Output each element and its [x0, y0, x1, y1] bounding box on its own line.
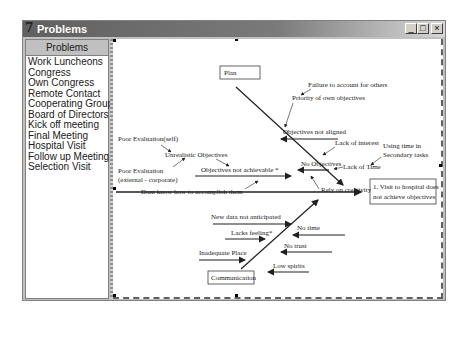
list-item[interactable]: Own Congress — [28, 78, 106, 89]
fishbone-diagram: 1. Visit to hospital does not achieve ob… — [113, 39, 443, 299]
cause-using-time-2: Secondary tasks — [383, 151, 429, 159]
maximize-button[interactable]: □ — [417, 23, 429, 34]
list-item[interactable]: Work Luncheons — [28, 57, 106, 68]
cause-low-spirits: Low spirits — [273, 262, 305, 270]
close-button[interactable]: × — [431, 23, 443, 34]
cause-using-time-1: Using time in — [383, 142, 422, 150]
effect-line-2: not achieve objectives — [373, 193, 435, 201]
minimize-button[interactable]: _ — [405, 23, 417, 34]
cause-lack-of-time: Lack of Time — [343, 163, 381, 171]
list-item[interactable]: Cooperating Groups — [28, 99, 106, 110]
cause-failure-to-account: Failure to account for others — [308, 81, 388, 89]
title-bar[interactable]: 7 Problems _ □ × — [23, 21, 445, 37]
list-item[interactable]: Selection Visit — [28, 162, 106, 173]
window-title: Problems — [37, 22, 87, 36]
list-item[interactable]: Hospital Visit — [28, 141, 106, 152]
cause-rely-on-creativity: Rely on creativity — [321, 186, 372, 194]
cause-no-time: No time — [297, 224, 320, 232]
resize-handle[interactable] — [235, 39, 238, 41]
resize-handle[interactable] — [113, 294, 116, 297]
effect-line-1: 1. Visit to hospital does — [373, 183, 439, 191]
list-header[interactable]: Problems — [26, 40, 108, 56]
category-communication: Communication — [211, 274, 257, 282]
resize-handle[interactable] — [235, 294, 238, 297]
cause-poor-evaluation-self: Poor Evaluation(self) — [118, 135, 179, 143]
cause-no-trust: No trust — [284, 242, 307, 250]
cause-unrealistic-objectives: Unrealistic Objectives — [165, 151, 228, 159]
fishbone-diagram-canvas[interactable]: 1. Visit to hospital does not achieve ob… — [113, 39, 443, 299]
cause-lack-of-interest: Lack of interest — [335, 139, 379, 147]
cause-priority-own-objectives: Priority of own objectives — [292, 94, 365, 102]
resize-handle[interactable] — [113, 39, 116, 42]
app-icon: 7 — [25, 22, 37, 35]
cause-no-objectives: No Objectives — [301, 160, 342, 168]
problems-list-panel: Problems Work Luncheons Congress Own Con… — [25, 39, 109, 299]
problems-list: Work Luncheons Congress Own Congress Rem… — [26, 56, 108, 174]
resize-handle[interactable] — [439, 164, 442, 167]
cause-poor-evaluation-ext-2: (external - corporate) — [118, 176, 178, 184]
cause-objectives-not-aligned: Objectives not aligned — [283, 128, 346, 136]
category-plan: Plan — [224, 69, 237, 77]
cause-lacks-feeling: Lacks feeling* — [231, 229, 273, 237]
cause-dont-know-how: Dont know how to accomplish them — [141, 188, 243, 196]
resize-handle[interactable] — [113, 187, 116, 190]
list-item[interactable]: Kick off meeting — [28, 120, 106, 131]
cause-inadequate-place: Inadequate Place — [199, 249, 247, 257]
cause-objectives-not-achievable: Objectives not achievable * — [201, 166, 279, 174]
cause-new-data: New data not anticipated — [211, 213, 281, 221]
cause-poor-evaluation-ext-1: Poor Evaluation — [118, 167, 164, 175]
problems-window: 7 Problems _ □ × Problems Work Luncheons… — [22, 20, 446, 301]
